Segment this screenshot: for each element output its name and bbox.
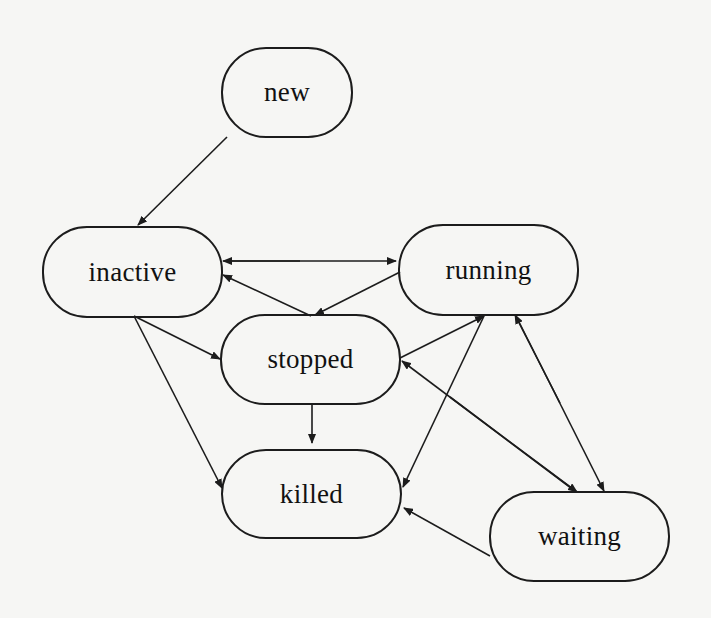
edge-waiting-to-killed[interactable] xyxy=(404,508,490,556)
state-node-stopped[interactable]: stopped xyxy=(220,314,401,405)
edge-new-to-inactive[interactable] xyxy=(138,137,227,225)
state-diagram: new inactive running stopped killed wait… xyxy=(0,0,711,618)
state-node-waiting[interactable]: waiting xyxy=(489,491,670,582)
edge-running-to-killed[interactable] xyxy=(403,316,484,487)
state-label-new: new xyxy=(264,77,310,108)
state-label-waiting: waiting xyxy=(538,521,621,552)
state-node-inactive[interactable]: inactive xyxy=(42,226,223,318)
state-label-killed: killed xyxy=(280,479,343,510)
edge-stopped-to-waiting[interactable] xyxy=(450,397,577,492)
edge-stopped-to-running[interactable] xyxy=(400,316,484,358)
state-label-inactive: inactive xyxy=(89,257,177,288)
edge-waiting-to-running[interactable] xyxy=(515,315,560,403)
edge-inactive-to-stopped[interactable] xyxy=(134,316,220,359)
state-label-stopped: stopped xyxy=(267,344,353,375)
state-label-running: running xyxy=(445,255,531,286)
edge-running-to-stopped[interactable] xyxy=(315,272,400,315)
state-node-killed[interactable]: killed xyxy=(221,449,402,539)
state-node-running[interactable]: running xyxy=(398,224,579,316)
state-node-new[interactable]: new xyxy=(221,47,353,138)
edge-stopped-to-inactive[interactable] xyxy=(223,275,311,316)
edge-inactive-to-killed[interactable] xyxy=(134,316,222,488)
